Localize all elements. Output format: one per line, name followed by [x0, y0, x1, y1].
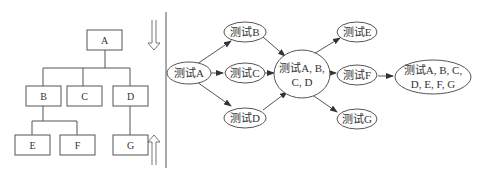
tree-node-c: C	[67, 86, 102, 106]
tree-node-d: D	[113, 86, 148, 106]
module-tree: A B C D E F G	[15, 30, 148, 155]
tree-node-e: E	[15, 135, 50, 155]
svg-text:A: A	[101, 35, 109, 46]
flow-node-test-abcd: 测试A, B, C, D	[274, 50, 330, 98]
svg-text:D: D	[127, 91, 134, 102]
svg-text:C, D: C, D	[292, 76, 313, 88]
flow-node-test-a: 测试A	[167, 62, 211, 84]
flow-node-test-d: 测试D	[224, 108, 266, 128]
up-double-arrow-icon	[148, 135, 160, 165]
flow-node-test-f: 测试F	[337, 65, 377, 85]
integration-diagram: A B C D E F G	[0, 0, 480, 180]
svg-text:G: G	[127, 140, 134, 151]
svg-text:F: F	[75, 140, 81, 151]
svg-text:测试D: 测试D	[230, 112, 260, 124]
svg-text:D, E, F, G: D, E, F, G	[411, 78, 455, 90]
svg-text:测试G: 测试G	[342, 113, 372, 125]
tree-node-g: G	[113, 135, 148, 155]
flow-node-test-g: 测试G	[337, 109, 377, 129]
tree-node-b: B	[26, 86, 61, 106]
svg-text:B: B	[40, 91, 47, 102]
svg-text:测试E: 测试E	[343, 26, 372, 38]
svg-text:C: C	[81, 91, 88, 102]
flow-node-test-all: 测试A, B, C, D, E, F, G	[395, 60, 471, 94]
svg-text:测试B: 测试B	[230, 26, 259, 38]
svg-text:测试A: 测试A	[174, 67, 204, 79]
svg-text:测试F: 测试F	[343, 69, 371, 81]
tree-node-a: A	[87, 30, 122, 50]
tree-node-f: F	[60, 135, 95, 155]
down-double-arrow-icon	[148, 20, 160, 50]
flow-node-test-e: 测试E	[337, 22, 377, 42]
svg-text:测试C: 测试C	[230, 67, 259, 79]
svg-text:测试A, B, C,: 测试A, B, C,	[404, 64, 463, 76]
flow-node-test-c: 测试C	[225, 63, 265, 83]
svg-text:E: E	[29, 140, 35, 151]
flow-node-test-b: 测试B	[224, 22, 266, 42]
svg-text:测试A, B,: 测试A, B,	[279, 62, 325, 74]
